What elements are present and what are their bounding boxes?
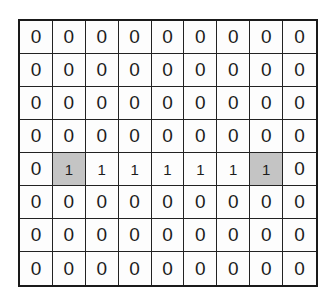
- grid-cell: 0: [152, 120, 185, 153]
- grid-cell: 0: [20, 252, 53, 285]
- grid-cell: 0: [217, 87, 250, 120]
- grid-cell: 0: [250, 120, 283, 153]
- grid-cell: 1: [86, 153, 119, 186]
- grid-cell: 0: [152, 219, 185, 252]
- grid-cell: 0: [283, 219, 316, 252]
- grid-cell: 0: [119, 120, 152, 153]
- grid-cell: 0: [283, 186, 316, 219]
- grid-cell: 0: [217, 186, 250, 219]
- grid-cell: 0: [250, 87, 283, 120]
- grid-cell: 0: [184, 87, 217, 120]
- grid-cell: 0: [184, 252, 217, 285]
- grid-cell: 1: [152, 153, 185, 186]
- grid-cell: 0: [53, 252, 86, 285]
- grid-cell: 0: [217, 54, 250, 87]
- grid-cell: 0: [86, 21, 119, 54]
- grid-cell: 1: [217, 153, 250, 186]
- grid-cell: 0: [283, 87, 316, 120]
- grid-cell: 0: [119, 21, 152, 54]
- grid-cell: 0: [86, 87, 119, 120]
- grid-cell: 1: [184, 153, 217, 186]
- grid-cell: 0: [250, 21, 283, 54]
- grid-cell: 0: [119, 87, 152, 120]
- highlighted-cell: 1: [250, 153, 283, 186]
- grid-cell: 0: [152, 252, 185, 285]
- grid-cell: 0: [53, 120, 86, 153]
- grid-cell: 0: [250, 54, 283, 87]
- grid-cell: 0: [86, 186, 119, 219]
- grid-cell: 0: [119, 252, 152, 285]
- grid-cell: 1: [119, 153, 152, 186]
- highlighted-cell: 1: [53, 153, 86, 186]
- grid-cell: 0: [152, 54, 185, 87]
- grid-cell: 0: [20, 186, 53, 219]
- grid-cell: 0: [217, 21, 250, 54]
- grid-cell: 0: [152, 186, 185, 219]
- grid-cell: 0: [152, 87, 185, 120]
- grid-cell: 0: [283, 252, 316, 285]
- grid-cell: 0: [20, 21, 53, 54]
- grid-cell: 0: [53, 87, 86, 120]
- grid-cell: 0: [217, 120, 250, 153]
- grid-cell: 0: [86, 219, 119, 252]
- grid-cell: 0: [86, 120, 119, 153]
- grid-cell: 0: [184, 21, 217, 54]
- grid-cell: 0: [250, 219, 283, 252]
- grid-cell: 0: [152, 21, 185, 54]
- grid-cell: 0: [283, 153, 316, 186]
- grid-cell: 0: [184, 186, 217, 219]
- grid-cell: 0: [283, 21, 316, 54]
- grid-cell: 0: [283, 120, 316, 153]
- grid-cell: 0: [20, 54, 53, 87]
- grid-cell: 0: [53, 54, 86, 87]
- grid-cell: 0: [86, 252, 119, 285]
- grid-cell: 0: [86, 54, 119, 87]
- grid-cell: 0: [20, 153, 53, 186]
- grid-cell: 0: [184, 219, 217, 252]
- grid-cell: 0: [20, 87, 53, 120]
- grid-cell: 0: [53, 219, 86, 252]
- grid-cell: 0: [184, 54, 217, 87]
- grid-cell: 0: [250, 186, 283, 219]
- grid-cell: 0: [119, 219, 152, 252]
- grid-cell: 0: [217, 252, 250, 285]
- grid-cell: 0: [184, 120, 217, 153]
- grid-cell: 0: [53, 21, 86, 54]
- grid-cell: 0: [119, 186, 152, 219]
- grid-cell: 0: [20, 120, 53, 153]
- grid-cell: 0: [250, 252, 283, 285]
- grid-cell: 0: [119, 54, 152, 87]
- binary-matrix-grid: 0000000000000000000000000000000000000111…: [18, 19, 318, 287]
- grid-cell: 0: [283, 54, 316, 87]
- grid-cell: 0: [217, 219, 250, 252]
- grid-cell: 0: [53, 186, 86, 219]
- grid-cell: 0: [20, 219, 53, 252]
